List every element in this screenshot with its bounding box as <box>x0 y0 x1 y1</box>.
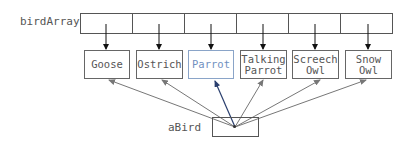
abird-label: aBird <box>168 121 201 134</box>
bird-box-goose: Goose <box>84 50 130 79</box>
bird-box-screech-owl: Screech Owl <box>292 50 339 79</box>
array-arrows <box>106 24 368 49</box>
bird-box-parrot: Parrot <box>188 50 234 79</box>
bird-box-snow-owl: Snow Owl <box>345 50 392 79</box>
abird-pointer-dot <box>233 125 236 128</box>
bird-box-talking-parrot: Talking Parrot <box>240 50 287 79</box>
bird-box-ostrich: Ostrich <box>136 50 183 79</box>
